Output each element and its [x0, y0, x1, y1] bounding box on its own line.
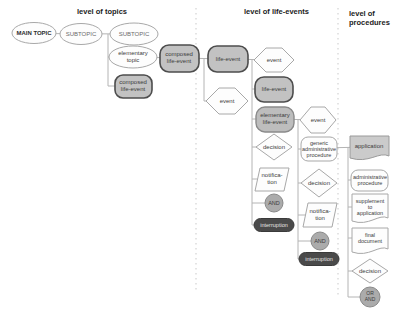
final-document-shape: [352, 228, 388, 254]
topics-column-header: level of topics: [77, 8, 127, 17]
diagram-canvas: level of topics level of life-events lev…: [0, 0, 402, 313]
interruption-2-shape: [299, 253, 339, 266]
composed-life-event-1-shape: [160, 45, 199, 72]
decision-3-shape: [352, 259, 388, 283]
diagram-shapes: [0, 0, 402, 313]
notification-1-shape: [255, 168, 289, 191]
and-2-shape: [311, 232, 329, 250]
generic-administrative-procedure-shape: [301, 137, 337, 161]
and-1-shape: [265, 194, 283, 212]
composed-life-event-2-shape: [115, 75, 152, 98]
life-event-1-shape: [208, 46, 248, 72]
procedures-column-header: level of procedures: [349, 10, 390, 27]
subtopic-1-shape: [60, 24, 102, 45]
notification-2-shape: [303, 203, 337, 227]
life-events-column-header: level of life-events: [244, 8, 309, 17]
decision-2-shape: [301, 169, 337, 197]
elementary-life-event-shape: [256, 107, 294, 132]
event-3-shape: [300, 107, 336, 133]
subtopic-2-shape: [110, 23, 158, 45]
life-event-2-shape: [255, 77, 293, 102]
or-and-shape: [360, 287, 380, 307]
interruption-1-shape: [254, 219, 294, 232]
supplement-to-application-shape: [352, 194, 388, 223]
decision-1-shape: [256, 134, 292, 160]
elementary-topic-shape: [109, 46, 157, 68]
event-2-shape: [206, 88, 248, 114]
main-topic-shape: [12, 23, 56, 44]
application-shape: [350, 136, 389, 160]
administrative-procedure-shape: [351, 170, 388, 191]
event-1-shape: [254, 48, 294, 72]
